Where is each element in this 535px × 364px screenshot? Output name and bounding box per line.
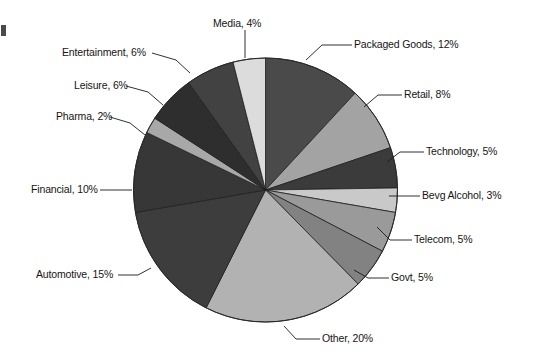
leader-line-retail xyxy=(364,95,402,107)
leader-line-entertainment xyxy=(152,53,190,73)
slice-label-govt: Govt, 5% xyxy=(391,271,433,283)
slice-label-automotive: Automotive, 15% xyxy=(36,268,113,280)
leader-line-pharma xyxy=(110,117,145,135)
slice-label-leisure: Leisure, 6% xyxy=(74,79,128,91)
leader-line-leisure xyxy=(126,86,163,105)
leader-line-packaged-goods xyxy=(306,45,352,60)
slice-label-pharma: Pharma, 2% xyxy=(56,110,112,122)
slice-label-other: Other, 20% xyxy=(322,332,373,344)
slice-label-telecom: Telecom, 5% xyxy=(414,233,472,245)
leader-line-other xyxy=(284,326,320,339)
slice-label-bevg-alcohol: Bevg Alcohol, 3% xyxy=(422,189,501,201)
slice-label-technology: Technology, 5% xyxy=(426,145,497,157)
pie-slice-group xyxy=(134,58,398,322)
slice-label-retail: Retail, 8% xyxy=(404,88,450,100)
leader-line-automotive xyxy=(118,268,151,275)
slice-label-media: Media, 4% xyxy=(213,17,261,29)
slice-label-entertainment: Entertainment, 6% xyxy=(62,46,146,58)
slice-label-financial: Financial, 10% xyxy=(31,183,98,195)
pie-chart-figure: Packaged Goods, 12% Retail, 8% Technolog… xyxy=(0,0,535,364)
slice-label-packaged-goods: Packaged Goods, 12% xyxy=(354,38,459,50)
